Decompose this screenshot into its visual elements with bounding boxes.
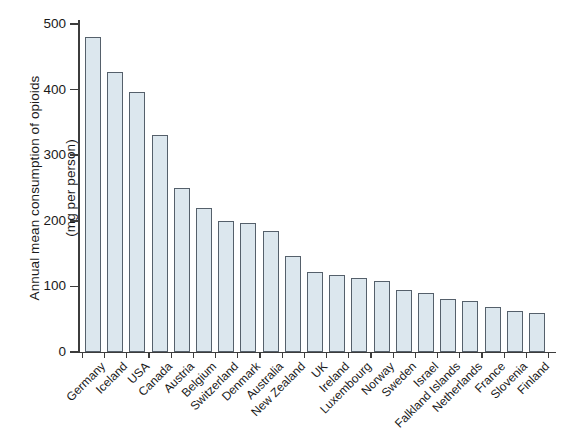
bar bbox=[351, 278, 367, 352]
x-axis-tick-mark bbox=[282, 352, 283, 358]
opioid-consumption-bar-chart: Annual mean consumption of opioids (mg p… bbox=[0, 0, 567, 440]
x-axis-tick-mark bbox=[304, 352, 305, 358]
bar bbox=[307, 272, 323, 352]
y-axis-tick-label: 0 bbox=[22, 345, 66, 359]
bar bbox=[529, 313, 545, 352]
bar bbox=[507, 311, 523, 352]
bar bbox=[285, 256, 301, 352]
y-axis-title-line-1: Annual mean consumption of opioids bbox=[26, 23, 44, 353]
y-axis-tick-mark bbox=[70, 89, 79, 91]
x-axis-tick-mark bbox=[526, 352, 527, 358]
bar bbox=[129, 92, 145, 352]
bar bbox=[329, 275, 345, 352]
y-axis-tick-label: 500 bbox=[22, 17, 66, 31]
x-axis-tick-mark bbox=[126, 352, 127, 358]
x-axis-tick-mark bbox=[171, 352, 172, 358]
bar bbox=[485, 307, 501, 352]
y-axis-tick-label: 200 bbox=[22, 214, 66, 228]
x-axis-tick-mark bbox=[193, 352, 194, 358]
y-axis-tick-label: 100 bbox=[22, 279, 66, 293]
x-axis-tick-mark bbox=[259, 352, 260, 358]
x-axis-tick-mark bbox=[237, 352, 238, 358]
bar bbox=[107, 72, 123, 352]
x-axis-tick-mark bbox=[348, 352, 349, 358]
y-axis-tick-mark bbox=[70, 351, 79, 353]
bar bbox=[462, 301, 478, 352]
bar bbox=[240, 223, 256, 352]
x-axis-tick-mark bbox=[104, 352, 105, 358]
x-axis-tick-mark bbox=[437, 352, 438, 358]
bar bbox=[263, 231, 279, 352]
x-axis-tick-mark bbox=[215, 352, 216, 358]
y-axis-tick-label: 400 bbox=[22, 83, 66, 97]
x-axis-tick-mark bbox=[548, 352, 549, 358]
x-axis-tick-mark bbox=[504, 352, 505, 358]
y-axis-tick-label: 300 bbox=[22, 148, 66, 162]
y-axis-tick-mark bbox=[70, 154, 79, 156]
bar bbox=[196, 208, 212, 352]
x-axis-tick-mark bbox=[481, 352, 482, 358]
bar bbox=[152, 135, 168, 352]
bar bbox=[218, 221, 234, 352]
y-axis-tick-mark bbox=[70, 23, 79, 25]
y-axis-line bbox=[78, 20, 80, 353]
x-axis-tick-mark bbox=[459, 352, 460, 358]
x-axis-tick-mark bbox=[82, 352, 83, 358]
x-axis-tick-mark bbox=[415, 352, 416, 358]
x-axis-tick-mark bbox=[148, 352, 149, 358]
x-axis-tick-mark bbox=[370, 352, 371, 358]
x-axis-tick-mark bbox=[326, 352, 327, 358]
bar bbox=[374, 281, 390, 352]
y-axis-title: Annual mean consumption of opioids (mg p… bbox=[8, 23, 48, 353]
y-axis-tick-mark bbox=[70, 286, 79, 288]
y-axis-tick-mark bbox=[70, 220, 79, 222]
bar bbox=[396, 290, 412, 352]
x-axis-tick-mark bbox=[393, 352, 394, 358]
bar bbox=[85, 37, 101, 352]
bar bbox=[418, 293, 434, 352]
bar bbox=[440, 299, 456, 352]
bar bbox=[174, 188, 190, 352]
